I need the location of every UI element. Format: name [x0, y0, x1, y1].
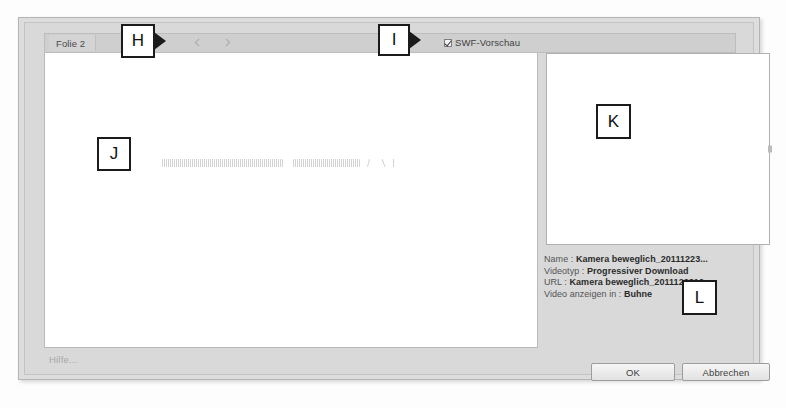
redacted-mark [367, 159, 370, 167]
help-link[interactable]: Hilfe... [49, 354, 78, 365]
dialog-inner-frame: Folie 2 SWF-Vorschau [24, 22, 754, 375]
info-value-display-target: Buhne [624, 289, 652, 299]
obscured-content-row [162, 159, 397, 168]
callout-label-i: I [378, 24, 410, 56]
callout-label-j: J [97, 137, 131, 171]
info-value-name: Kamera beweglich_20111223... [576, 254, 708, 264]
video-preview-pane[interactable] [546, 53, 770, 245]
redacted-mark [393, 159, 394, 167]
info-label-videotype: Videotyp : [544, 266, 584, 276]
info-row-display-target: Video anzeigen in : Buhne [544, 289, 774, 301]
info-row-videotype: Videotyp : Progressiver Download [544, 266, 774, 278]
info-row-url: URL : Kamera beweglich_2011122310... [544, 277, 774, 289]
video-properties-dialog: Folie 2 SWF-Vorschau [18, 17, 760, 380]
info-label-name: Name : [544, 254, 573, 264]
tab-folie-2[interactable]: Folie 2 [49, 35, 96, 51]
cancel-button[interactable]: Abbrechen [682, 363, 770, 381]
callout-label-h: H [121, 24, 155, 58]
callout-label-l: L [682, 280, 717, 315]
info-value-videotype: Progressiver Download [587, 266, 689, 276]
swf-preview-checkbox-group[interactable]: SWF-Vorschau [444, 35, 520, 50]
redacted-bar [162, 159, 283, 167]
scanned-page-background: Folie 2 SWF-Vorschau [0, 0, 786, 408]
slide-editing-canvas[interactable] [44, 53, 538, 348]
chevron-right-icon[interactable] [223, 38, 232, 47]
info-label-display-target: Video anzeigen in : [544, 289, 621, 299]
info-row-name: Name : Kamera beweglich_20111223... [544, 254, 774, 266]
callout-pointer-h [154, 32, 166, 50]
redacted-mark [382, 159, 386, 167]
callout-label-k: K [596, 104, 631, 139]
video-info-block: Name : Kamera beweglich_20111223... Vide… [544, 254, 774, 300]
chevron-left-icon[interactable] [193, 38, 202, 47]
redacted-bar [293, 159, 360, 167]
preview-resize-handle[interactable] [768, 146, 772, 153]
swf-preview-label: SWF-Vorschau [455, 37, 520, 48]
ok-button[interactable]: OK [591, 363, 675, 381]
swf-preview-checkbox[interactable] [444, 39, 452, 47]
info-label-url: URL : [544, 277, 567, 287]
callout-pointer-i [409, 31, 421, 49]
